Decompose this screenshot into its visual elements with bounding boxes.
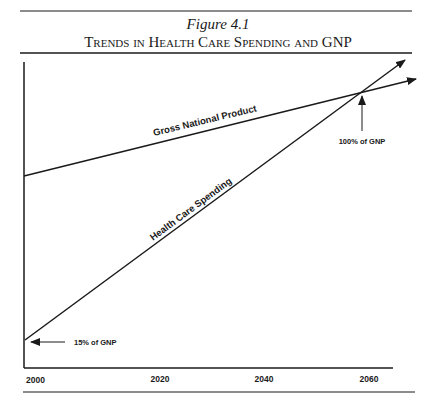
- figure: Figure 4.1 Trends in Health Care Spendin…: [0, 0, 438, 409]
- health-care-line: [25, 60, 405, 340]
- gnp-label: Gross National Product: [152, 102, 259, 138]
- health-care-label: Health Care Spending: [148, 175, 234, 243]
- gnp-line: [24, 79, 416, 176]
- x-tick-2060: 2060: [360, 374, 379, 384]
- start-label: 15% of GNP: [74, 338, 117, 347]
- x-tick-2020: 2020: [151, 374, 170, 384]
- x-tick-2000: 2000: [26, 375, 45, 385]
- crossover-label: 100% of GNP: [339, 137, 386, 146]
- figure-title: Trends in Health Care Spending and GNP: [84, 34, 352, 50]
- x-tick-2040: 2040: [255, 374, 274, 384]
- figure-number: Figure 4.1: [186, 16, 250, 32]
